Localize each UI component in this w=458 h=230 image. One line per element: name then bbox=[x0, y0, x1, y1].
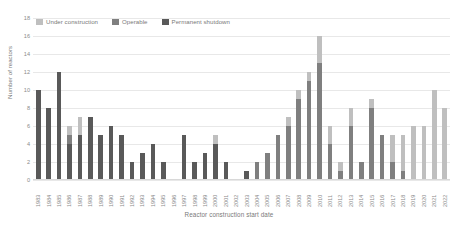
bar-group[interactable] bbox=[325, 18, 335, 180]
bar-stack[interactable] bbox=[213, 135, 218, 180]
bar-segment-permanent-shutdown[interactable] bbox=[78, 135, 83, 180]
bar-stack[interactable] bbox=[119, 135, 124, 180]
bar-segment-operable[interactable] bbox=[328, 144, 333, 180]
bar-group[interactable] bbox=[168, 18, 178, 180]
bar-segment-operable[interactable] bbox=[286, 126, 291, 180]
bar-group[interactable] bbox=[148, 18, 158, 180]
bar-group[interactable] bbox=[387, 18, 397, 180]
bar-stack[interactable] bbox=[390, 135, 395, 180]
bar-group[interactable] bbox=[106, 18, 116, 180]
bar-group[interactable] bbox=[189, 18, 199, 180]
bar-segment-under-construction[interactable] bbox=[390, 135, 395, 162]
bar-stack[interactable] bbox=[442, 108, 447, 180]
bar-stack[interactable] bbox=[88, 117, 93, 180]
bar-segment-permanent-shutdown[interactable] bbox=[151, 144, 156, 180]
bar-stack[interactable] bbox=[57, 72, 62, 180]
bar-segment-permanent-shutdown[interactable] bbox=[57, 72, 62, 180]
bar-segment-under-construction[interactable] bbox=[411, 126, 416, 180]
bar-segment-under-construction[interactable] bbox=[349, 108, 354, 126]
bar-group[interactable] bbox=[241, 18, 251, 180]
bar-stack[interactable] bbox=[161, 162, 166, 180]
bar-segment-permanent-shutdown[interactable] bbox=[182, 135, 187, 180]
bar-segment-under-construction[interactable] bbox=[338, 162, 343, 171]
bar-segment-permanent-shutdown[interactable] bbox=[67, 144, 72, 180]
bar-segment-under-construction[interactable] bbox=[307, 72, 312, 81]
bar-group[interactable] bbox=[335, 18, 345, 180]
bar-group[interactable] bbox=[262, 18, 272, 180]
bar-stack[interactable] bbox=[130, 162, 135, 180]
bar-stack[interactable] bbox=[98, 135, 103, 180]
bar-segment-operable[interactable] bbox=[296, 99, 301, 180]
bar-group[interactable] bbox=[75, 18, 85, 180]
bar-segment-under-construction[interactable] bbox=[296, 90, 301, 99]
bar-stack[interactable] bbox=[140, 153, 145, 180]
bar-group[interactable] bbox=[221, 18, 231, 180]
bar-stack[interactable] bbox=[151, 144, 156, 180]
bar-stack[interactable] bbox=[349, 108, 354, 180]
bar-segment-under-construction[interactable] bbox=[317, 36, 322, 63]
bar-group[interactable] bbox=[33, 18, 43, 180]
bar-stack[interactable] bbox=[359, 162, 364, 180]
bar-segment-under-construction[interactable] bbox=[213, 135, 218, 144]
bar-segment-under-construction[interactable] bbox=[286, 117, 291, 126]
bar-group[interactable] bbox=[116, 18, 126, 180]
bar-group[interactable] bbox=[408, 18, 418, 180]
bar-group[interactable] bbox=[398, 18, 408, 180]
bar-group[interactable] bbox=[429, 18, 439, 180]
bar-segment-permanent-shutdown[interactable] bbox=[192, 162, 197, 180]
bar-segment-under-construction[interactable] bbox=[369, 99, 374, 108]
bar-group[interactable] bbox=[43, 18, 53, 180]
bar-stack[interactable] bbox=[286, 117, 291, 180]
bar-segment-under-construction[interactable] bbox=[442, 108, 447, 180]
bar-stack[interactable] bbox=[307, 72, 312, 180]
bar-segment-permanent-shutdown[interactable] bbox=[203, 153, 208, 180]
bar-group[interactable] bbox=[127, 18, 137, 180]
bar-stack[interactable] bbox=[182, 135, 187, 180]
bar-stack[interactable] bbox=[265, 153, 270, 180]
bar-group[interactable] bbox=[179, 18, 189, 180]
bar-segment-operable[interactable] bbox=[390, 162, 395, 180]
bar-segment-operable[interactable] bbox=[265, 153, 270, 180]
bar-segment-permanent-shutdown[interactable] bbox=[161, 162, 166, 180]
bar-group[interactable] bbox=[356, 18, 366, 180]
bar-stack[interactable] bbox=[78, 117, 83, 180]
bar-segment-permanent-shutdown[interactable] bbox=[98, 135, 103, 180]
bar-segment-under-construction[interactable] bbox=[78, 117, 83, 135]
bar-stack[interactable] bbox=[328, 126, 333, 180]
bar-group[interactable] bbox=[231, 18, 241, 180]
bar-group[interactable] bbox=[346, 18, 356, 180]
bar-segment-permanent-shutdown[interactable] bbox=[224, 162, 229, 180]
bar-segment-operable[interactable] bbox=[255, 162, 260, 180]
bar-segment-under-construction[interactable] bbox=[401, 135, 406, 171]
bar-stack[interactable] bbox=[67, 126, 72, 180]
bar-segment-permanent-shutdown[interactable] bbox=[119, 135, 124, 180]
bar-segment-permanent-shutdown[interactable] bbox=[36, 90, 41, 180]
bar-stack[interactable] bbox=[36, 90, 41, 180]
bar-group[interactable] bbox=[439, 18, 449, 180]
bar-group[interactable] bbox=[137, 18, 147, 180]
bar-segment-operable[interactable] bbox=[369, 108, 374, 180]
bar-segment-permanent-shutdown[interactable] bbox=[109, 126, 114, 180]
bar-group[interactable] bbox=[54, 18, 64, 180]
bar-stack[interactable] bbox=[369, 99, 374, 180]
bar-stack[interactable] bbox=[432, 90, 437, 180]
bar-group[interactable] bbox=[85, 18, 95, 180]
bar-group[interactable] bbox=[158, 18, 168, 180]
bar-segment-operable[interactable] bbox=[67, 135, 72, 144]
bar-segment-under-construction[interactable] bbox=[67, 126, 72, 135]
bar-group[interactable] bbox=[304, 18, 314, 180]
bar-group[interactable] bbox=[314, 18, 324, 180]
bar-stack[interactable] bbox=[296, 90, 301, 180]
bar-segment-operable[interactable] bbox=[317, 63, 322, 180]
bar-group[interactable] bbox=[367, 18, 377, 180]
bar-stack[interactable] bbox=[203, 153, 208, 180]
bar-segment-permanent-shutdown[interactable] bbox=[46, 108, 51, 180]
bar-stack[interactable] bbox=[317, 36, 322, 180]
bar-segment-operable[interactable] bbox=[276, 135, 281, 180]
bar-group[interactable] bbox=[419, 18, 429, 180]
bar-segment-permanent-shutdown[interactable] bbox=[130, 162, 135, 180]
bar-segment-under-construction[interactable] bbox=[432, 90, 437, 180]
bar-segment-operable[interactable] bbox=[380, 135, 385, 180]
bar-segment-under-construction[interactable] bbox=[328, 126, 333, 144]
bar-segment-permanent-shutdown[interactable] bbox=[88, 117, 93, 180]
